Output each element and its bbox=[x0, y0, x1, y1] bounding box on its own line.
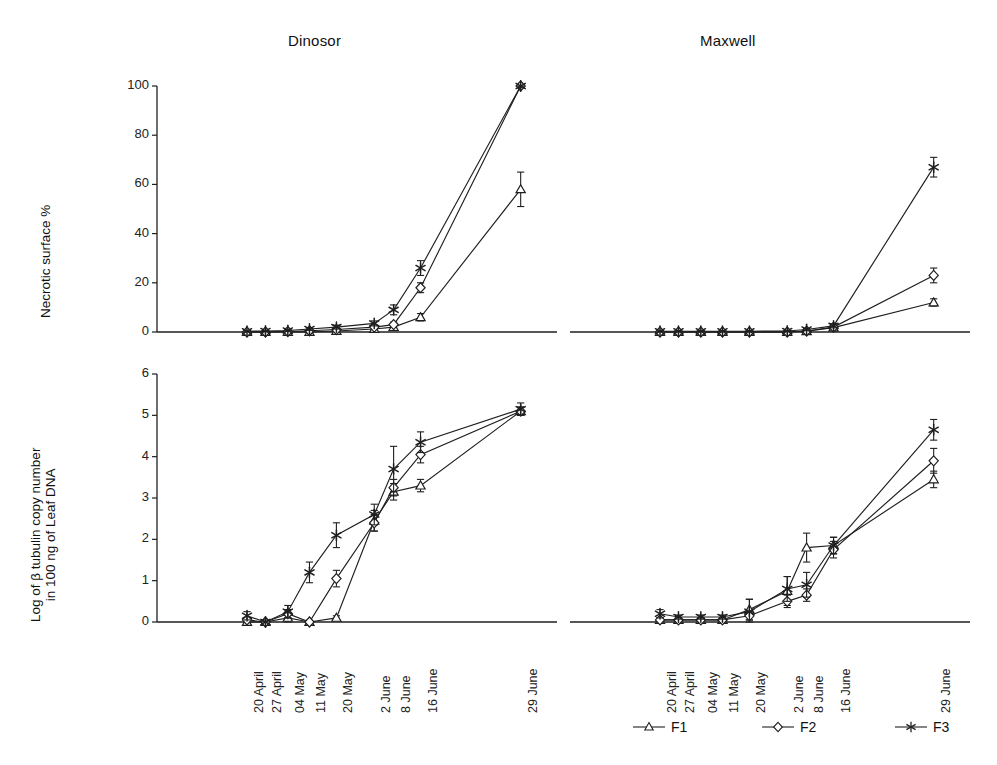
legend-item-f1[interactable]: F1 bbox=[632, 716, 687, 738]
x-tick-label: 2 June bbox=[792, 675, 806, 713]
data-point-asterisk bbox=[389, 305, 398, 315]
plot-dinosor-tubulin bbox=[127, 367, 587, 629]
x-tick-label: 20 April bbox=[252, 671, 266, 713]
series-line bbox=[660, 430, 934, 617]
x-tick-label: 27 April bbox=[683, 671, 697, 713]
data-point-triangle bbox=[332, 613, 341, 621]
x-tick-label: 04 May bbox=[706, 672, 720, 713]
y-tick-label: 4 bbox=[109, 448, 149, 463]
series-F2 bbox=[242, 81, 525, 337]
series-F2 bbox=[655, 268, 938, 337]
series-line bbox=[247, 86, 521, 332]
x-tick-label: 8 June bbox=[399, 675, 413, 713]
x-tick-label: 04 May bbox=[293, 672, 307, 713]
y-axis-title-necrotic: Necrotic surface % bbox=[38, 205, 53, 318]
x-tick-label: 2 June bbox=[379, 675, 393, 713]
y-tick-label: 3 bbox=[109, 489, 149, 504]
plot-dinosor-necrotic bbox=[127, 79, 587, 339]
x-tick-label: 20 May bbox=[341, 672, 355, 713]
series-F2 bbox=[655, 448, 938, 625]
x-tick-label: 20 April bbox=[665, 671, 679, 713]
plot-maxwell-tubulin bbox=[540, 367, 997, 629]
x-tick-label: 16 June bbox=[839, 669, 853, 713]
series-line bbox=[247, 189, 521, 332]
y-axis-title-tubulin-line2: in 100 ng of Leaf DNA bbox=[43, 448, 58, 622]
y-tick-label: 6 bbox=[109, 365, 149, 380]
data-point-diamond bbox=[332, 574, 341, 584]
y-tick-label: 2 bbox=[109, 530, 149, 545]
y-tick-label: 20 bbox=[109, 274, 149, 289]
legend-label-f3: F3 bbox=[930, 719, 949, 735]
y-tick-label: 1 bbox=[109, 572, 149, 587]
x-tick-label: 29 June bbox=[526, 669, 540, 713]
panel-title-maxwell: Maxwell bbox=[700, 32, 756, 49]
x-tick-label: 16 June bbox=[426, 669, 440, 713]
series-F1 bbox=[242, 172, 525, 335]
x-tick-label: 11 May bbox=[727, 673, 741, 713]
series-line bbox=[247, 411, 521, 622]
series-line bbox=[660, 167, 934, 331]
x-tick-label: 8 June bbox=[812, 675, 826, 713]
figure-root: Dinosor Maxwell Necrotic surface % Log o… bbox=[0, 0, 997, 765]
legend-item-f3[interactable]: F3 bbox=[894, 716, 949, 738]
series-line bbox=[660, 461, 934, 620]
data-point-diamond bbox=[929, 270, 938, 280]
y-tick-label: 80 bbox=[109, 126, 149, 141]
series-F3 bbox=[655, 419, 938, 622]
x-tick-label: 20 May bbox=[754, 672, 768, 713]
legend-marker-diamond-icon bbox=[761, 720, 795, 734]
legend-label-f1: F1 bbox=[668, 719, 687, 735]
legend-label-f2: F2 bbox=[797, 719, 816, 735]
x-tick-label: 11 May bbox=[314, 673, 328, 713]
data-point-triangle bbox=[929, 475, 938, 483]
y-axis-title-tubulin-line1: Log of β tubulin copy number bbox=[28, 448, 43, 622]
series-line bbox=[247, 86, 521, 331]
legend-marker-asterisk-icon bbox=[894, 720, 928, 734]
legend-item-f2[interactable]: F2 bbox=[761, 716, 816, 738]
series-F1 bbox=[242, 407, 525, 626]
x-tick-label: 29 June bbox=[939, 669, 953, 713]
series-F3 bbox=[242, 81, 525, 337]
data-point-triangle bbox=[416, 481, 425, 489]
y-tick-label: 60 bbox=[109, 175, 149, 190]
y-tick-label: 40 bbox=[109, 225, 149, 240]
series-F3 bbox=[242, 403, 525, 627]
legend-marker-triangle-icon bbox=[632, 720, 666, 734]
y-axis-title-tubulin: Log of β tubulin copy number in 100 ng o… bbox=[28, 448, 58, 622]
legend: F1 F2 F3 bbox=[626, 716, 976, 740]
data-point-asterisk bbox=[416, 263, 425, 273]
y-tick-label: 100 bbox=[109, 77, 149, 92]
y-tick-label: 0 bbox=[109, 323, 149, 338]
plot-maxwell-necrotic bbox=[540, 79, 997, 339]
x-tick-label: 27 April bbox=[270, 671, 284, 713]
y-tick-label: 0 bbox=[109, 613, 149, 628]
data-point-asterisk bbox=[929, 162, 938, 172]
series-line bbox=[247, 411, 521, 622]
data-point-triangle bbox=[516, 185, 525, 193]
y-tick-label: 5 bbox=[109, 406, 149, 421]
series-line bbox=[660, 275, 934, 332]
panel-title-dinosor: Dinosor bbox=[288, 32, 341, 49]
series-F3 bbox=[655, 157, 938, 336]
